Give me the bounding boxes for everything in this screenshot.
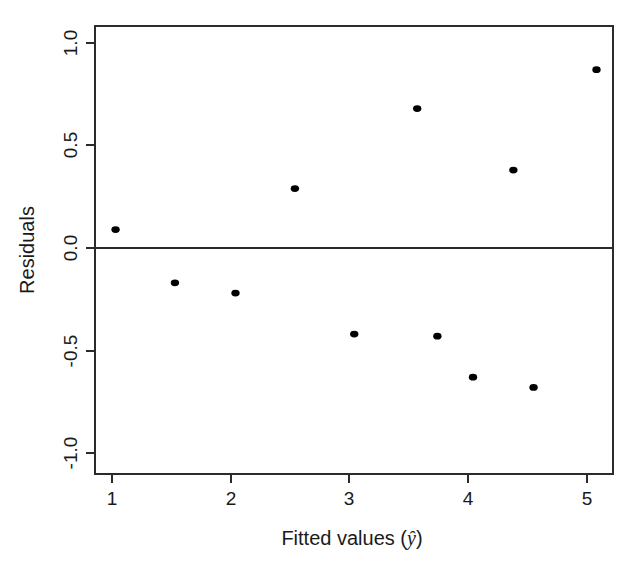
data-point [231,290,239,297]
data-point [350,331,358,338]
y-tick-label-0.5: 0.5 [60,132,81,158]
residual-plot-figure: 1.0 0.5 0.0 -0.5 -1.0 1 2 3 4 5 Residual… [0,0,641,568]
data-point [413,105,421,112]
y-axis-ticks [86,43,95,453]
data-point [433,333,441,340]
x-tick-label-3: 3 [344,488,355,509]
y-tick-label-1.0: 1.0 [60,30,81,56]
data-point [529,384,537,391]
data-point [469,374,477,381]
plot-frame-box [95,26,613,474]
residual-scatter-plot: 1.0 0.5 0.0 -0.5 -1.0 1 2 3 4 5 Residual… [0,0,641,568]
y-tick-label-neg1.0: -1.0 [60,437,81,470]
x-axis-title-prefix: Fitted values ( [281,527,407,549]
x-axis-tick-labels: 1 2 3 4 5 [107,488,593,509]
x-tick-label-2: 2 [226,488,237,509]
data-point [592,66,600,73]
x-axis-title-suffix: ) [416,527,423,549]
y-tick-label-neg0.5: -0.5 [60,335,81,368]
x-tick-label-4: 4 [463,488,474,509]
data-point [509,167,517,174]
data-point [171,279,179,286]
x-axis-title: Fitted values (ŷ) [281,527,422,550]
y-axis-title: Residuals [16,206,38,294]
x-tick-label-5: 5 [582,488,593,509]
x-axis-ticks [112,474,587,483]
data-point [111,226,119,233]
x-axis-title-yhat-symbol: ŷ [405,527,416,550]
x-tick-label-1: 1 [107,488,118,509]
y-tick-label-0.0: 0.0 [60,235,81,261]
data-point [291,185,299,192]
data-points-layer [111,66,600,391]
y-axis-tick-labels: 1.0 0.5 0.0 -0.5 -1.0 [60,30,81,470]
